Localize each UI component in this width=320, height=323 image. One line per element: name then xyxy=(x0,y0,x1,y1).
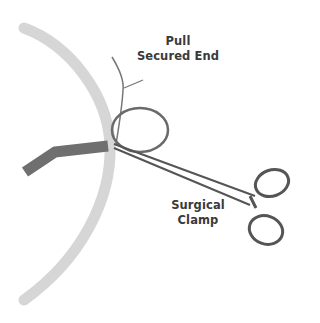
clamp-shaft-upper xyxy=(114,144,255,196)
clamp-label-line1: Surgical xyxy=(148,198,248,213)
clamp-finger-ring-upper xyxy=(252,165,293,201)
pull-label-line2: Secured End xyxy=(118,49,238,64)
dark-tube xyxy=(25,146,108,172)
clamp-ratchet xyxy=(250,196,256,208)
clamp-label-line2: Clamp xyxy=(148,213,248,228)
pull-label-line1: Pull xyxy=(118,34,238,49)
clamp-finger-ring-lower xyxy=(245,211,287,249)
label-leader-line xyxy=(124,80,143,88)
surgical-clamp-label: Surgical Clamp xyxy=(148,198,248,228)
pull-secured-end-label: Pull Secured End xyxy=(118,34,238,64)
clamp-shaft-lower xyxy=(114,148,250,205)
